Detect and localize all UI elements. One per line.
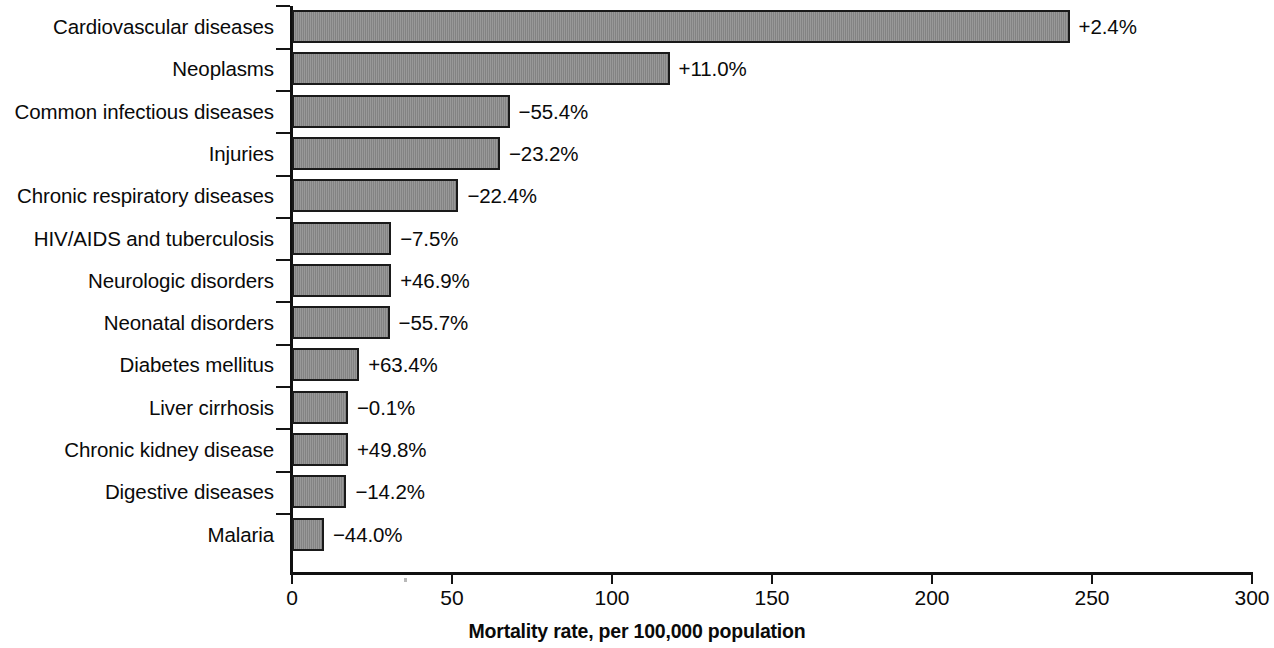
- bar-row: Chronic respiratory diseases−22.4%: [0, 179, 1274, 212]
- bar-row: HIV/AIDS and tuberculosis−7.5%: [0, 222, 1274, 255]
- bar: [292, 475, 346, 508]
- plot-area: Cardiovascular diseases+2.4%Neoplasms+11…: [0, 0, 1274, 648]
- x-axis-tick-label: 50: [440, 586, 463, 610]
- y-axis-tick: [276, 132, 290, 134]
- bar-value-label: −55.7%: [399, 306, 469, 339]
- category-label: Common infectious diseases: [15, 95, 274, 128]
- bar-value-label: −44.0%: [333, 518, 403, 551]
- y-axis-tick: [276, 217, 290, 219]
- x-axis-tick: [611, 572, 613, 584]
- category-label: Chronic respiratory diseases: [17, 179, 274, 212]
- category-label: HIV/AIDS and tuberculosis: [34, 222, 274, 255]
- bar-value-label: −23.2%: [509, 137, 579, 170]
- x-axis-tick: [931, 572, 933, 584]
- bar: [292, 264, 391, 297]
- x-axis-tick: [1251, 572, 1253, 584]
- category-label: Liver cirrhosis: [149, 391, 274, 424]
- bar-value-label: −7.5%: [400, 222, 458, 255]
- bar: [292, 391, 348, 424]
- bar-value-label: −0.1%: [357, 391, 415, 424]
- bar: [292, 222, 391, 255]
- x-axis-tick-label: 150: [754, 586, 789, 610]
- bar: [292, 306, 390, 339]
- bar: [292, 52, 670, 85]
- bar-value-label: +49.8%: [357, 433, 427, 466]
- scan-artifact-speck: [404, 578, 407, 582]
- x-axis-tick-label: 0: [286, 586, 298, 610]
- bar-row: Chronic kidney disease+49.8%: [0, 433, 1274, 466]
- bar-value-label: +46.9%: [400, 264, 470, 297]
- x-axis-tick-label: 100: [594, 586, 629, 610]
- x-axis-title: Mortality rate, per 100,000 population: [0, 620, 1274, 643]
- category-label: Malaria: [207, 518, 274, 551]
- bar-row: Malaria−44.0%: [0, 518, 1274, 551]
- bar: [292, 348, 359, 381]
- bar-value-label: −22.4%: [467, 179, 537, 212]
- bar-row: Digestive diseases−14.2%: [0, 475, 1274, 508]
- bar: [292, 179, 458, 212]
- category-label: Neurologic disorders: [88, 264, 274, 297]
- bar: [292, 95, 510, 128]
- bar: [292, 10, 1070, 43]
- y-axis-tick: [276, 471, 290, 473]
- bar-row: Cardiovascular diseases+2.4%: [0, 10, 1274, 43]
- category-label: Neoplasms: [172, 52, 274, 85]
- bar-row: Neoplasms+11.0%: [0, 52, 1274, 85]
- bar: [292, 518, 324, 551]
- y-axis-tick: [276, 428, 290, 430]
- category-label: Neonatal disorders: [104, 306, 274, 339]
- bar-value-label: −14.2%: [355, 475, 425, 508]
- y-axis-tick: [276, 48, 290, 50]
- y-axis-tick: [276, 175, 290, 177]
- y-axis-tick: [276, 5, 290, 7]
- bar-row: Neurologic disorders+46.9%: [0, 264, 1274, 297]
- y-axis-tick: [276, 344, 290, 346]
- bar-value-label: +11.0%: [679, 52, 747, 85]
- x-axis-tick: [451, 572, 453, 584]
- bar-row: Neonatal disorders−55.7%: [0, 306, 1274, 339]
- category-label: Digestive diseases: [105, 475, 274, 508]
- bar-value-label: +63.4%: [368, 348, 438, 381]
- bar: [292, 137, 500, 170]
- y-axis-tick: [276, 301, 290, 303]
- y-axis-tick: [276, 513, 290, 515]
- bar-row: Injuries−23.2%: [0, 137, 1274, 170]
- category-label: Chronic kidney disease: [64, 433, 274, 466]
- x-axis-tick: [291, 572, 293, 584]
- x-axis-tick-label: 200: [914, 586, 949, 610]
- y-axis-tick: [276, 386, 290, 388]
- x-axis-tick: [771, 572, 773, 584]
- y-axis-tick: [276, 90, 290, 92]
- mortality-rate-bar-chart: Cardiovascular diseases+2.4%Neoplasms+11…: [0, 0, 1274, 648]
- bar-row: Common infectious diseases−55.4%: [0, 95, 1274, 128]
- category-label: Cardiovascular diseases: [53, 10, 274, 43]
- category-label: Diabetes mellitus: [120, 348, 274, 381]
- bar-value-label: +2.4%: [1079, 10, 1137, 43]
- y-axis-tick: [276, 259, 290, 261]
- bar-row: Diabetes mellitus+63.4%: [0, 348, 1274, 381]
- x-axis-tick-label: 300: [1234, 586, 1269, 610]
- bar-row: Liver cirrhosis−0.1%: [0, 391, 1274, 424]
- x-axis-tick-label: 250: [1074, 586, 1109, 610]
- x-axis-tick: [1091, 572, 1093, 584]
- bar-value-label: −55.4%: [519, 95, 589, 128]
- bar: [292, 433, 348, 466]
- category-label: Injuries: [209, 137, 274, 170]
